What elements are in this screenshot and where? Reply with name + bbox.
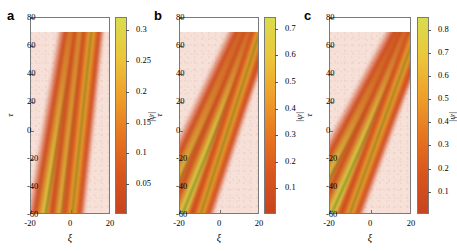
- colorbar-tick-label-c-6: 0.7: [438, 47, 449, 57]
- colorbar-tick-a-0: [126, 184, 129, 185]
- x-axis-title-b: ξ: [217, 232, 221, 243]
- colorbar-tick-a-2: [126, 123, 129, 124]
- colorbar-tick-label-a-3: 0.2: [136, 86, 147, 96]
- heatmap-plot-b: [179, 17, 259, 214]
- y-axis-title-a: τ: [5, 103, 15, 127]
- top-blank-c: [330, 18, 410, 32]
- x-tick-label-a-2: 20: [106, 218, 115, 228]
- colorbar-tick-label-a-5: 0.3: [136, 24, 147, 34]
- colorbar-tick-c-6: [428, 53, 431, 54]
- colorbar-tick-label-b-6: 0.7: [285, 23, 296, 33]
- x-tick-label-c-1: 0: [368, 218, 372, 228]
- colorbar-tick-label-c-4: 0.5: [438, 93, 449, 103]
- x-tick-label-b-2: 20: [255, 218, 264, 228]
- colorbar-tick-label-c-7: 0.8: [438, 24, 449, 34]
- colorbar-gradient-c: [418, 18, 428, 213]
- colorbar-tick-label-a-1: 0.1: [136, 147, 147, 157]
- colorbar-tick-label-b-1: 0.2: [285, 156, 296, 166]
- colorbar-tick-label-b-2: 0.3: [285, 129, 296, 139]
- y-axis-title-c: τ: [304, 103, 314, 127]
- y-tick-c-3: [330, 131, 333, 132]
- colorbar-tick-c-7: [428, 30, 431, 31]
- colorbar-tick-a-3: [126, 92, 129, 93]
- colorbar-tick-b-2: [275, 135, 278, 136]
- x-tick-c-1: [371, 210, 372, 213]
- colorbar-a: [115, 17, 127, 214]
- colorbar-tick-b-6: [275, 29, 278, 30]
- heatmap-plot-a: [30, 17, 110, 214]
- y-tick-a-3: [31, 131, 34, 132]
- x-tick-label-b-0: -20: [173, 218, 184, 228]
- colorbar-tick-label-b-3: 0.4: [285, 103, 296, 113]
- colorbar-tick-b-0: [275, 188, 278, 189]
- panel-label-b: b: [154, 9, 162, 22]
- panel-c: c ξ τ |ψ| -60-40-20020406080-200200.10.2…: [298, 0, 451, 251]
- colorbar-tick-c-0: [428, 192, 431, 193]
- colorbar-b: [264, 17, 276, 214]
- panel-label-a: a: [7, 9, 14, 22]
- colorbar-tick-b-5: [275, 55, 278, 56]
- x-tick-label-a-0: -20: [24, 218, 35, 228]
- panel-label-c: c: [304, 9, 311, 22]
- colorbar-tick-label-b-4: 0.5: [285, 76, 296, 86]
- colorbar-tick-label-b-0: 0.1: [285, 182, 296, 192]
- x-tick-label-c-2: 20: [407, 218, 416, 228]
- colorbar-tick-a-4: [126, 61, 129, 62]
- x-axis-title-a: ξ: [68, 232, 72, 243]
- colorbar-tick-label-b-5: 0.6: [285, 49, 296, 59]
- colorbar-gradient-b: [265, 18, 275, 213]
- colorbar-c: [417, 17, 429, 214]
- colorbar-tick-c-2: [428, 145, 431, 146]
- x-tick-a-1: [71, 210, 72, 213]
- y-axis-title-b: τ: [154, 103, 164, 127]
- x-tick-b-1: [220, 210, 221, 213]
- colorbar-tick-b-3: [275, 109, 278, 110]
- colorbar-tick-label-c-2: 0.3: [438, 139, 449, 149]
- x-tick-label-c-0: -20: [323, 218, 334, 228]
- y-tick-b-3: [180, 131, 183, 132]
- colorbar-tick-c-4: [428, 99, 431, 100]
- colorbar-gradient-a: [116, 18, 126, 213]
- x-tick-label-b-1: 0: [217, 218, 221, 228]
- colorbar-tick-c-1: [428, 169, 431, 170]
- panel-b: b ξ τ |ψ| -60-40-20020406080-200200.10.2…: [148, 0, 298, 251]
- colorbar-tick-label-c-1: 0.2: [438, 163, 449, 173]
- x-tick-label-a-1: 0: [68, 218, 72, 228]
- colorbar-tick-a-5: [126, 30, 129, 31]
- top-blank-a: [31, 18, 109, 32]
- colorbar-tick-label-c-3: 0.4: [438, 116, 449, 126]
- colorbar-tick-a-1: [126, 153, 129, 154]
- colorbar-tick-c-3: [428, 122, 431, 123]
- colorbar-tick-label-c-5: 0.6: [438, 70, 449, 80]
- heatmap-plot-c: [329, 17, 411, 214]
- colorbar-tick-b-4: [275, 82, 278, 83]
- colorbar-tick-b-1: [275, 162, 278, 163]
- top-blank-b: [180, 18, 258, 32]
- x-axis-title-c: ξ: [368, 232, 372, 243]
- colorbar-tick-c-5: [428, 76, 431, 77]
- panel-a: a ξ τ |ψ| -60-40-20020406080-200200.050.…: [0, 0, 148, 251]
- colorbar-tick-label-c-0: 0.1: [438, 186, 449, 196]
